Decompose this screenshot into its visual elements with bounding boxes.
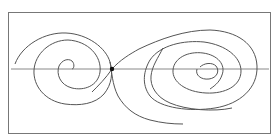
right-spiral-core <box>197 63 218 79</box>
separatrix-lower-left <box>92 69 112 92</box>
phase-portrait-diagram <box>0 0 279 137</box>
saddle-point-marker <box>110 67 114 71</box>
diagram-frame <box>9 13 271 134</box>
right-spiral-outer-trajectory <box>139 30 257 110</box>
separatrix-upper-right <box>112 49 139 69</box>
separatrix-lower-right <box>110 62 183 124</box>
